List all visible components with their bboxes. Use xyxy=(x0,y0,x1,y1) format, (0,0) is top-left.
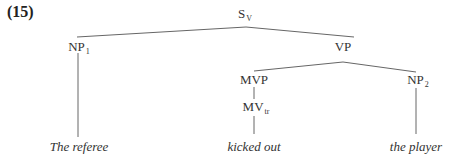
branch-vp-np2 xyxy=(343,62,416,72)
node-np2-subscript: 2 xyxy=(425,80,429,89)
tree-branches xyxy=(0,0,466,161)
node-s-subscript: V xyxy=(246,14,252,23)
node-np1: NP1 xyxy=(68,40,90,59)
branch-s-np1 xyxy=(77,27,246,37)
node-vp-label: VP xyxy=(335,39,352,54)
branch-s-vp xyxy=(246,27,354,37)
node-np1-label: NP xyxy=(68,39,85,54)
node-s-label: S xyxy=(238,6,245,21)
node-np2-label: NP xyxy=(407,72,424,87)
node-mvp-label: MVP xyxy=(240,72,268,87)
leaf-the-referee: The referee xyxy=(50,140,109,154)
leaf-kicked-out: kicked out xyxy=(227,140,280,154)
node-vp: VP xyxy=(335,40,352,54)
node-np1-subscript: 1 xyxy=(86,47,90,56)
node-mv-subscript: tr xyxy=(265,107,270,116)
node-mvp: MVP xyxy=(240,73,268,87)
node-np2: NP2 xyxy=(407,73,429,92)
node-mv-label: MV xyxy=(243,99,264,114)
leaf-the-player: the player xyxy=(390,140,442,154)
branch-vp-mvp xyxy=(254,62,343,71)
node-mv: MVtr xyxy=(243,100,270,119)
node-s: SV xyxy=(238,7,252,26)
